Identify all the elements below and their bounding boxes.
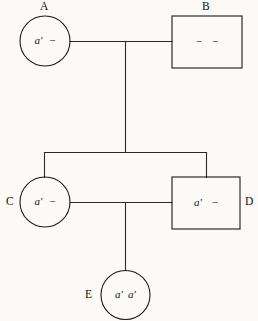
- genotype-e-prime1: ′: [121, 288, 123, 300]
- genotype-d: a′−: [172, 196, 240, 208]
- genotype-d-allele2: −: [212, 196, 218, 208]
- genotype-a-allele2: −: [49, 34, 55, 46]
- genotype-b-allele2: −: [212, 35, 218, 47]
- genotype-b: −−: [172, 35, 242, 47]
- genotype-b-allele1: −: [196, 35, 202, 47]
- pedigree-diagram-canvas: [0, 0, 258, 321]
- genotype-e-prime2: ′: [134, 288, 136, 300]
- genotype-a: a′−: [20, 34, 70, 46]
- individual-label-d: D: [245, 195, 254, 207]
- individual-label-e: E: [85, 288, 92, 300]
- genotype-a-prime1: ′: [40, 34, 42, 46]
- genotype-c-prime1: ′: [40, 195, 42, 207]
- genotype-c: a′−: [20, 195, 70, 207]
- genotype-c-allele2: −: [49, 195, 55, 207]
- individual-label-a: A: [40, 0, 49, 12]
- pedigree-chart: A B C D E a′− −− a′− a′− a′a′: [0, 0, 258, 321]
- genotype-d-prime1: ′: [199, 196, 201, 208]
- individual-label-c: C: [6, 195, 14, 207]
- genotype-e: a′a′: [101, 288, 150, 300]
- individual-label-b: B: [202, 0, 210, 12]
